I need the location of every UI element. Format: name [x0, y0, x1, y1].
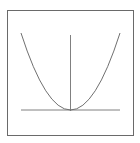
- parabola-diagram: [0, 0, 140, 143]
